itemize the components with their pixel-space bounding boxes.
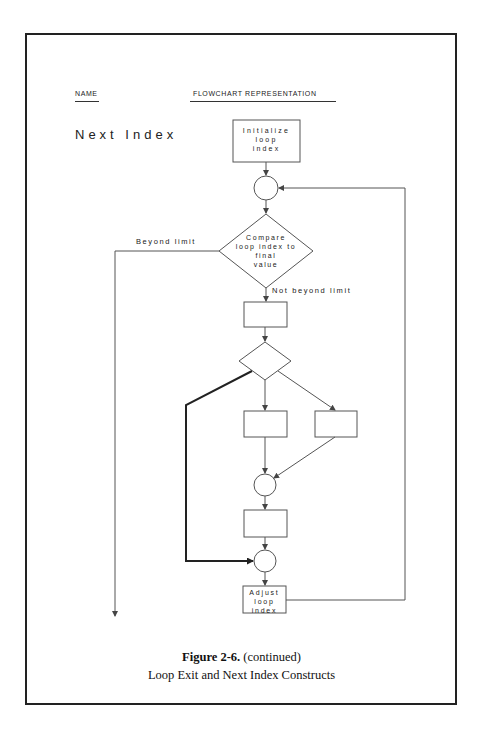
connector-2: [254, 474, 276, 496]
compare-diamond-label: Compare loop index to final value: [214, 233, 318, 269]
process-4-box: [244, 510, 287, 537]
not-beyond-limit-label: Not beyond limit: [272, 286, 351, 295]
init-box-label: Initialize loop index: [233, 126, 300, 153]
process-3-box: [315, 411, 357, 437]
figure-note: (continued): [243, 650, 301, 664]
connector-3: [254, 550, 276, 572]
adjust-box-label: Adjust loop index: [243, 588, 286, 615]
figure-caption-title: Loop Exit and Next Index Constructs: [0, 668, 483, 683]
process-2-box: [244, 411, 287, 437]
figure-number: Figure 2-6.: [182, 650, 240, 664]
beyond-limit-label: Beyond limit: [136, 237, 196, 246]
flowchart: [0, 0, 483, 742]
figure-caption-line1: Figure 2-6. (continued): [0, 650, 483, 665]
process-1-box: [244, 302, 287, 327]
connector-1: [254, 176, 278, 200]
